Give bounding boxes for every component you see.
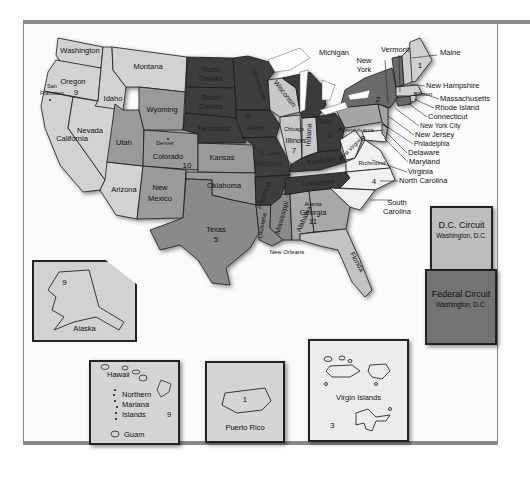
label-illinois: Illinois xyxy=(286,136,307,145)
circuit-number-5: 5 xyxy=(214,235,219,244)
label-new-jersey: New Jersey xyxy=(415,130,454,139)
label-south-carolina-1: South xyxy=(387,198,407,207)
label-connecticut: Connecticut xyxy=(428,112,469,121)
label-indiana: Indiana xyxy=(305,123,313,146)
label-michigan: Michigan xyxy=(319,48,349,57)
label-ohio: Ohio xyxy=(317,118,332,125)
nmi-label-line-3: Islands xyxy=(122,410,151,420)
hawaii-label: Hawaii xyxy=(107,370,130,379)
label-san-francisco-1: San xyxy=(47,83,57,89)
label-oklahoma: Oklahoma xyxy=(207,181,242,190)
label-new-york-city: New York City xyxy=(420,122,461,130)
city-dot-denver xyxy=(167,138,169,140)
label-massachusetts: Massachusetts xyxy=(440,94,490,103)
label-missouri: Missouri xyxy=(254,159,282,168)
label-rhode-island: Rhode Island xyxy=(435,103,479,112)
label-south-dakota-1: South xyxy=(201,93,221,102)
federal-circuit-title: Federal Circuit xyxy=(427,289,495,299)
label-new-orleans: New Orleans xyxy=(270,249,305,255)
virgin-islands-outline-icon xyxy=(310,341,407,440)
nmi-label-line-2: Mariana xyxy=(122,400,151,410)
label-new-mexico-2: Mexico xyxy=(148,194,172,203)
state-connecticut[interactable] xyxy=(396,96,411,106)
label-washington: Washington xyxy=(60,46,99,55)
label-arizona: Arizona xyxy=(111,185,137,194)
label-new-york-2: York xyxy=(357,65,372,74)
circuit-number-6: 6 xyxy=(328,131,333,140)
label-montana: Montana xyxy=(133,62,163,71)
label-north-carolina: North Carolina xyxy=(399,176,448,185)
federal-circuit-location: Washington, D.C. xyxy=(427,301,495,308)
label-maine: Maine xyxy=(440,48,460,57)
puerto-rico-label: Puerto Rico xyxy=(207,423,283,432)
label-atlanta: Atlanta xyxy=(304,201,322,207)
label-wyoming: Wyoming xyxy=(146,105,177,114)
nmi-label-line-1: Northern xyxy=(122,390,151,400)
label-st-louis: St. Louis xyxy=(259,150,281,156)
label-nebraska: Nebraska xyxy=(198,124,231,133)
dc-circuit-location: Washington, D.C. xyxy=(432,232,491,239)
state-new-mexico[interactable] xyxy=(137,166,186,219)
circuit-number-8: 8 xyxy=(246,111,251,120)
pacific-circuit-number: 9 xyxy=(167,410,171,419)
inset-puerto-rico[interactable]: 1 Puerto Rico xyxy=(205,361,285,443)
label-philadelphia: Philadelphia xyxy=(414,140,450,148)
alaska-label: Alaska xyxy=(34,324,135,333)
circuit-number-7: 7 xyxy=(292,146,297,155)
city-dot-san-francisco xyxy=(49,99,51,101)
label-texas: Texas xyxy=(206,225,226,234)
label-maryland: Maryland xyxy=(409,157,440,166)
circuit-number-2: 2 xyxy=(376,95,381,104)
label-chicago: Chicago xyxy=(284,126,304,132)
inset-virgin-islands[interactable]: Virgin Islands 3 xyxy=(308,339,409,442)
label-new-york-1: New xyxy=(356,56,372,65)
label-richmond: Richmond xyxy=(358,160,385,166)
label-idaho: Idaho xyxy=(104,94,123,103)
dc-circuit-box[interactable]: D.C. Circuit Washington, D.C. xyxy=(430,206,493,273)
label-south-carolina-2: Carolina xyxy=(383,207,412,216)
puerto-rico-circuit-number: 1 xyxy=(207,395,283,404)
circuit-number-10: 10 xyxy=(183,161,192,170)
label-north-dakota-2: Dakota xyxy=(199,74,224,83)
guam-label: Guam xyxy=(124,430,144,439)
label-kansas: Kansas xyxy=(209,153,234,162)
label-vermont: Vermont xyxy=(381,45,410,54)
label-iowa: Iowa xyxy=(247,123,264,132)
label-california: California xyxy=(56,134,89,143)
circuit-number-4: 4 xyxy=(372,177,377,186)
virgin-islands-circuit-number: 3 xyxy=(330,421,334,430)
label-colorado: Colorado xyxy=(153,152,183,161)
label-denver: Denver xyxy=(156,140,174,146)
circuit-number-3: 3 xyxy=(361,134,366,143)
virgin-islands-label: Virgin Islands xyxy=(310,393,407,402)
label-new-mexico-1: New xyxy=(152,183,168,192)
label-virginia: Virginia xyxy=(408,167,434,176)
federal-circuit-box[interactable]: Federal Circuit Washington, D.C. xyxy=(425,269,497,345)
circuit-number-11: 11 xyxy=(309,217,318,226)
circuit-number-1: 1 xyxy=(418,61,423,70)
label-san-francisco-2: Francisco xyxy=(40,90,64,96)
label-delaware: Delaware xyxy=(408,148,440,157)
circuit-number-9: 9 xyxy=(74,88,79,97)
label-oregon: Oregon xyxy=(60,77,85,86)
nmi-label: Northern Mariana Islands xyxy=(122,390,151,420)
label-south-dakota-2: Dakota xyxy=(199,102,224,111)
label-utah: Utah xyxy=(116,138,132,147)
state-new-york[interactable] xyxy=(340,68,398,108)
label-pennsylvania: Pennsylvania xyxy=(338,127,374,133)
label-north-dakota-1: North xyxy=(202,65,220,74)
label-boston: Boston xyxy=(414,91,433,97)
label-new-hampshire: New Hampshire xyxy=(426,81,479,90)
dc-circuit-title: D.C. Circuit xyxy=(432,220,491,230)
label-nevada: Nevada xyxy=(77,126,104,135)
inset-hawaii-pacific[interactable]: Hawaii Northern Mariana Islands 9 Guam xyxy=(89,360,180,445)
